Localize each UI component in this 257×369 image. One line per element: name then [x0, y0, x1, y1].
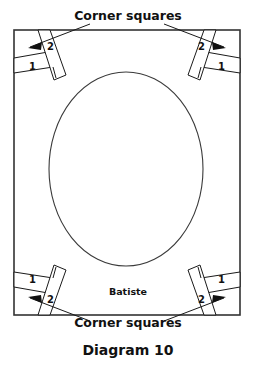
corner-strip-2-label-br: 2 — [198, 294, 205, 305]
top-annotation-label: Corner squares — [74, 8, 182, 23]
fabric-label: Batiste — [109, 286, 147, 297]
corner-strip-2-label-bl: 2 — [47, 294, 54, 305]
center-oval — [49, 72, 203, 266]
corner-strip-1-label-tl: 1 — [29, 61, 36, 72]
diagram-canvas: 1 2 1 2 1 2 — [0, 0, 257, 369]
bottom-annotation-label: Corner squares — [74, 315, 182, 330]
corner-strip-2-label-tr: 2 — [198, 41, 205, 52]
diagram-title: Diagram 10 — [82, 342, 173, 358]
corner-strip-2-label-tl: 2 — [47, 41, 54, 52]
corner-strip-1-label-bl: 1 — [29, 274, 36, 285]
diagram-svg: 1 2 1 2 1 2 — [0, 0, 257, 369]
corner-strip-1-label-br: 1 — [218, 274, 225, 285]
corner-strip-1-label-tr: 1 — [218, 61, 225, 72]
